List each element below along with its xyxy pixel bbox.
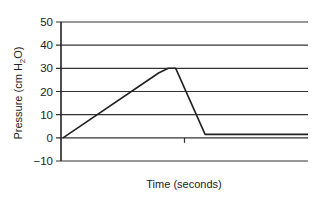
y-axis-title: Pressure (cm H2O) <box>12 46 27 139</box>
y-tick-label: 30 <box>40 62 53 74</box>
y-tick-label: 50 <box>40 16 53 28</box>
gridlines <box>56 22 308 161</box>
y-tick-label: 40 <box>40 39 53 51</box>
y-tick-label: 10 <box>40 109 53 121</box>
y-tick-label: 0 <box>47 132 53 144</box>
y-tick-label: 20 <box>40 86 53 98</box>
pressure-time-chart: −1001020304050 Time (seconds) Pressure (… <box>0 0 321 197</box>
pressure-line <box>63 68 308 138</box>
y-tick-label: −10 <box>33 155 53 167</box>
x-axis-title: Time (seconds) <box>146 178 221 190</box>
y-axis-ticks: −1001020304050 <box>33 16 53 167</box>
